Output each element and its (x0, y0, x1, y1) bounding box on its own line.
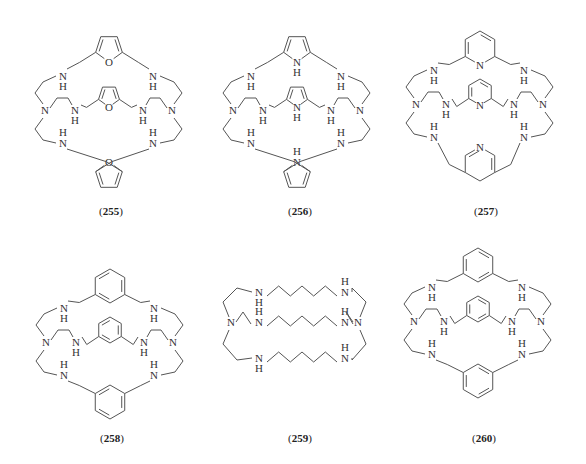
compound-label-260: (260) (444, 432, 524, 444)
compound-number: 260 (476, 432, 493, 444)
hydrogen-label: H (508, 325, 516, 337)
paren-close: ) (492, 432, 496, 444)
hydrogen-label: H (428, 291, 436, 303)
tertiary-nitrogen-label: N (537, 315, 545, 327)
tertiary-nitrogen-label: N (410, 315, 418, 327)
nitrogen-label: N (518, 348, 526, 360)
figure-canvas: NNNHNHNHNHNHNHOOO(255)NNNHNHNHNHNHNHNHNH… (0, 0, 586, 464)
hydrogen-label: H (428, 337, 436, 349)
hydrogen-label: H (518, 291, 526, 303)
hydrogen-label: H (518, 337, 526, 349)
structure-260: NNNHNHNHNHNHNH (0, 0, 586, 464)
nitrogen-label: N (428, 348, 436, 360)
hydrogen-label: H (440, 325, 448, 337)
